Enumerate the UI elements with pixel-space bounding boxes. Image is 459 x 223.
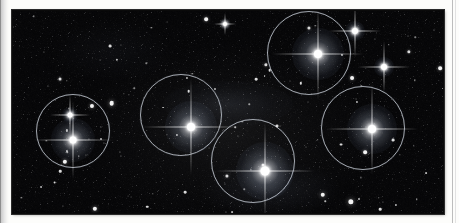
- field-star: [363, 150, 367, 154]
- field-star: [395, 204, 397, 206]
- field-star: [438, 67, 442, 71]
- field-star: [413, 145, 415, 147]
- field-star: [47, 86, 48, 87]
- field-star: [399, 154, 400, 155]
- field-star: [261, 164, 264, 167]
- page-gutter-edge: [0, 0, 1, 223]
- field-star: [59, 77, 62, 80]
- field-star: [407, 50, 410, 53]
- field-star: [204, 17, 208, 21]
- right-margin-rule-secondary: [455, 0, 456, 223]
- field-star: [425, 172, 427, 174]
- field-star: [358, 198, 360, 200]
- field-star: [264, 75, 266, 77]
- field-star: [214, 88, 216, 90]
- right-margin-rule: [452, 0, 453, 223]
- field-star: [320, 193, 325, 198]
- field-star: [244, 189, 246, 191]
- star-core: [261, 167, 270, 176]
- field-star: [152, 193, 153, 194]
- field-star: [378, 197, 380, 199]
- field-star: [307, 102, 308, 103]
- star-core: [70, 137, 77, 144]
- field-star: [360, 177, 361, 178]
- diffraction-spike-vertical: [355, 11, 356, 57]
- scanned-page: [0, 0, 459, 223]
- field-star: [275, 125, 278, 128]
- field-star: [279, 125, 280, 126]
- field-star: [433, 30, 434, 31]
- field-star: [268, 69, 271, 72]
- star-core: [352, 28, 358, 34]
- field-star: [166, 22, 167, 23]
- field-star: [339, 143, 342, 146]
- field-star: [43, 51, 44, 52]
- field-star: [128, 196, 129, 197]
- field-star: [290, 80, 291, 81]
- field-star: [305, 146, 306, 147]
- field-star: [100, 138, 102, 140]
- field-star: [255, 78, 258, 81]
- field-star: [59, 170, 62, 173]
- field-star: [414, 36, 416, 38]
- field-star: [382, 201, 383, 202]
- page-gutter-shadow: [0, 0, 9, 223]
- field-star: [192, 73, 193, 74]
- field-star: [317, 139, 319, 141]
- nebulosity-patch: [53, 21, 173, 81]
- field-star: [109, 45, 112, 48]
- field-star: [66, 80, 67, 81]
- field-star: [356, 99, 357, 100]
- field-star: [392, 139, 395, 142]
- field-star: [128, 94, 129, 95]
- field-star: [248, 104, 250, 106]
- field-star: [146, 205, 149, 208]
- field-star: [133, 87, 135, 89]
- field-star: [13, 26, 14, 27]
- field-star: [407, 36, 408, 37]
- field-star: [208, 148, 209, 149]
- field-star: [33, 16, 34, 17]
- field-star: [109, 101, 114, 106]
- field-star: [145, 63, 146, 64]
- field-star: [348, 199, 353, 204]
- star-core: [368, 125, 376, 133]
- field-star: [414, 79, 415, 80]
- field-star: [40, 186, 42, 188]
- field-star: [120, 44, 121, 45]
- field-star: [53, 181, 56, 184]
- field-star: [379, 208, 382, 211]
- field-star: [231, 211, 233, 213]
- field-star: [121, 155, 122, 156]
- field-star: [162, 107, 164, 109]
- field-star: [119, 151, 120, 152]
- field-star: [151, 27, 152, 28]
- field-star: [374, 38, 375, 39]
- field-star: [388, 44, 389, 45]
- field-star: [115, 59, 117, 61]
- field-star: [93, 207, 97, 211]
- star-core: [68, 113, 73, 118]
- field-star: [264, 63, 267, 66]
- field-star: [123, 93, 124, 94]
- field-star: [235, 126, 237, 128]
- field-star: [100, 59, 101, 60]
- field-star: [226, 211, 227, 212]
- star-field-photographic-plate: [13, 11, 443, 213]
- field-star: [416, 198, 418, 200]
- field-star: [63, 206, 64, 207]
- field-star: [66, 151, 68, 153]
- field-star: [184, 191, 187, 194]
- field-star: [21, 197, 22, 198]
- field-star: [341, 54, 343, 56]
- field-star: [130, 196, 131, 197]
- field-star: [350, 76, 354, 80]
- field-star: [442, 88, 443, 90]
- star-core: [187, 123, 195, 131]
- field-star: [324, 201, 326, 203]
- plate-frame: [12, 10, 444, 214]
- star-core: [223, 22, 227, 26]
- star-core: [314, 50, 322, 58]
- field-star: [187, 90, 190, 93]
- star-core: [381, 64, 387, 70]
